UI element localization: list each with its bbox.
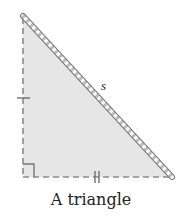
figure-caption: A triangle (0, 190, 182, 209)
triangle-diagram (0, 0, 182, 216)
hypotenuse-label: s (101, 78, 106, 94)
